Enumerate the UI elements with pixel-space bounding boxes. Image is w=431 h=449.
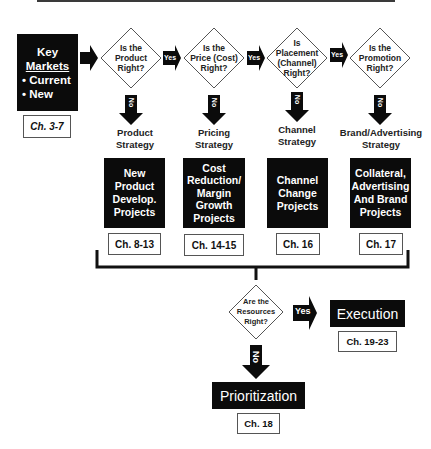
decision-text: Is the [120,43,142,53]
decision-text: Right? [244,317,268,327]
chapter-label: Ch. 19-23 [346,336,388,347]
chapter-label: Ch. 16 [283,239,313,250]
strategy-text: Strategy [262,136,332,148]
decision-product: Is the Product Right? [100,27,162,89]
project-text: Projects [360,206,401,219]
decision-text: Right? [201,63,228,73]
chapter-label: Ch. 14-15 [192,240,236,251]
bullet-new: • New [17,87,53,101]
decision-text: Is the [203,43,225,53]
decision-resources: Are the Resources Right? [228,284,284,340]
key-markets-box: Key Markets • Current • New [17,34,78,111]
project-box-channel: Channel Change Projects [267,158,328,228]
decision-placement: Is Placement (Channel) Right? [266,27,328,89]
decision-text: Right? [284,68,311,78]
project-text: Change [278,187,317,200]
chapter-box-prioritization: Ch. 18 [237,413,280,434]
decision-text: Is the [369,43,391,53]
top-border-line [37,0,395,2]
strategy-text: Strategy [335,139,427,151]
no-label: No [377,98,384,107]
no-label: No [251,351,261,363]
decision-price: Is the Price (Cost) Right? [183,27,245,89]
chapter-label: Ch. 17 [366,239,396,250]
arrow-right-icon [80,45,98,71]
decision-promotion: Is the Promotion Right? [349,27,411,89]
project-text: Projects [193,212,234,225]
project-text: Develop. [113,193,157,206]
yes-label: Yes [295,306,311,316]
project-text: Growth [196,199,233,212]
key-markets-subtitle: Markets [26,59,69,73]
decision-text: Product [115,53,147,63]
chapter-label: Ch. 8-13 [115,239,154,250]
strategy-text: Brand/Advertising [335,127,427,139]
project-box-product: New Product Develop. Projects [104,158,165,228]
yes-label: Yes [331,51,343,58]
execution-box: Execution [330,300,405,327]
project-text: New [124,167,146,180]
project-text: Collateral, [355,167,406,180]
project-text: Projects [277,200,318,213]
strategy-label-product: Product Strategy [100,127,170,151]
strategy-label-channel: Channel Strategy [262,124,332,148]
project-box-brand: Collateral, Advertising And Brand Projec… [350,158,411,228]
strategy-text: Strategy [179,139,249,151]
strategy-text: Strategy [100,139,170,151]
decision-text: Right? [118,63,145,73]
project-text: Product [115,180,155,193]
chapter-label: Ch. 3-7 [30,121,63,132]
prioritization-label: Prioritization [220,388,297,404]
strategy-label-brand: Brand/Advertising Strategy [335,127,427,151]
decision-text: Promotion [359,53,402,63]
project-text: Reduction/ [187,174,241,187]
decision-text: Right? [367,63,394,73]
decision-text: (Channel) [277,58,316,68]
chapter-box-key-markets: Ch. 3-7 [23,115,71,138]
strategy-text: Channel [262,124,332,136]
decision-text: Price (Cost) [190,53,238,63]
decision-text: Is [293,38,300,48]
decision-text: Resources [237,307,275,317]
strategy-text: Pricing [179,127,249,139]
strategy-label-pricing: Pricing Strategy [179,127,249,151]
decision-text: Placement [276,48,319,58]
decision-text: Are the [243,297,269,307]
no-label: No [128,98,135,107]
project-text: Cost [202,162,225,175]
chapter-box-execution: Ch. 19-23 [338,331,397,352]
bracket-connector [95,250,411,282]
project-text: And Brand [354,193,408,206]
strategy-text: Product [100,127,170,139]
chapter-label: Ch. 18 [244,418,273,429]
project-text: Channel [277,174,318,187]
yes-label: Yes [164,54,176,61]
execution-label: Execution [337,306,398,322]
project-text: Projects [114,206,155,219]
no-label: No [211,98,218,107]
project-box-pricing: Cost Reduction/ Margin Growth Projects [183,158,245,228]
key-markets-title: Key [37,45,58,59]
bullet-current: • Current [17,73,71,87]
project-text: Advertising [352,180,410,193]
yes-label: Yes [248,54,260,61]
no-label: No [294,95,301,104]
project-text: Margin [197,187,231,200]
prioritization-box: Prioritization [212,382,305,409]
